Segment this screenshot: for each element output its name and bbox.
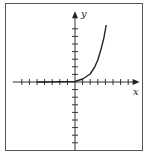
x-axis-label: x [133,86,139,97]
y-axis-arrow-icon [72,11,78,18]
y-axis-label: y [80,8,87,19]
plot-area: x y [0,0,146,158]
curve-line [37,25,106,82]
x-axis-arrow-icon [133,79,140,85]
